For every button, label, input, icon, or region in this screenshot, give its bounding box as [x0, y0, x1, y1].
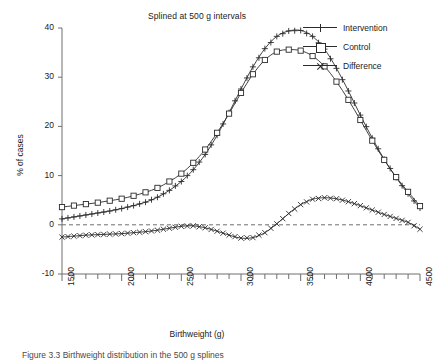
x-axis-tick-label: 3000: [245, 267, 255, 286]
x-axis-tick-label: 2000: [126, 267, 136, 286]
legend-label: Difference: [343, 61, 382, 71]
x-axis-tick-label: 4500: [424, 267, 434, 286]
series-difference: [59, 195, 422, 241]
figure-caption: Figure 3.3 Birthweight distribution in t…: [22, 350, 416, 361]
x-axis-tick-label: 1500: [66, 267, 76, 286]
legend-label: Control: [343, 42, 370, 52]
legend-item-difference[interactable]: Difference: [303, 56, 387, 75]
chart-legend: Intervention Control Difference: [303, 18, 387, 75]
y-axis-tick-label: -10: [28, 268, 54, 278]
y-axis-tick-label: 30: [28, 71, 54, 81]
x-axis-tick-label: 3500: [305, 267, 315, 286]
legend-marker-plus-icon: [303, 22, 337, 34]
legend-item-control[interactable]: Control: [303, 37, 387, 56]
y-axis-tick-label: 0: [28, 219, 54, 229]
legend-marker-square-icon: [303, 41, 337, 53]
x-axis-tick-label: 4000: [364, 267, 374, 286]
y-axis-tick-label: 10: [28, 170, 54, 180]
x-axis-tick-label: 2500: [185, 267, 195, 286]
y-axis-tick-label: 20: [28, 120, 54, 130]
legend-item-intervention[interactable]: Intervention: [303, 18, 387, 37]
y-axis-tick-label: 40: [28, 22, 54, 32]
chart-figure: Splined at 500 g intervals % of cases Bi…: [0, 0, 436, 361]
legend-label: Intervention: [343, 23, 387, 33]
legend-marker-cross-icon: [303, 60, 337, 72]
